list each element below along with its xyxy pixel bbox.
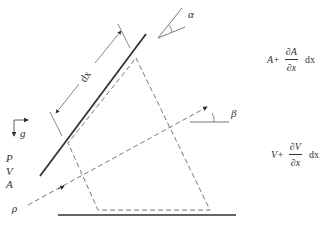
pressure-label: P: [6, 153, 13, 164]
area-derivative-fraction: ∂A ∂x: [284, 46, 299, 73]
area-equation: A+ ∂A ∂x dx: [267, 46, 315, 73]
velocity-derivative-fraction: ∂V ∂x: [288, 141, 303, 168]
area-label: A: [6, 179, 13, 190]
velocity-equation: V+ ∂V ∂x dx: [271, 141, 319, 168]
dx-dimension-line-bottom: [56, 84, 79, 113]
diagram-graphics: [0, 0, 325, 231]
control-volume-boundary: [68, 58, 210, 210]
inclined-wall: [40, 34, 146, 176]
alpha-label: α: [188, 9, 194, 20]
velocity-label: V: [6, 166, 13, 177]
g-label: g: [20, 128, 26, 139]
dx-extension-top: [118, 24, 130, 48]
beta-label: β: [231, 108, 236, 119]
density-label: ρ: [12, 203, 17, 214]
dx-extension-bottom: [50, 112, 62, 136]
dx-dimension-line-top: [95, 31, 121, 63]
control-volume-diagram: dx α β g P V A ρ A+ ∂A ∂x dx V+ ∂V ∂x dx: [0, 0, 325, 231]
beta-arc: [212, 113, 214, 122]
flow-arrowhead-mid: [58, 186, 64, 189]
alpha-arc: [169, 25, 172, 32]
